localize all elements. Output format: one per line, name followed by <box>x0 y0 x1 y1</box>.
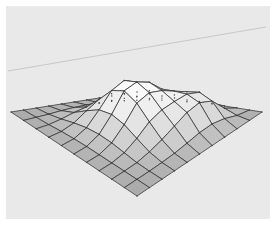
surface-vertex <box>136 95 137 96</box>
surface-svg <box>0 0 276 225</box>
surface-vertex <box>211 145 212 146</box>
surface-vertex <box>149 121 150 122</box>
surface-vertex <box>161 97 162 98</box>
surface-vertex <box>48 105 49 106</box>
surface-vertex <box>23 109 24 110</box>
surface-vertex <box>73 138 74 139</box>
surface-vertex <box>73 122 74 123</box>
surface-vertex <box>174 170 175 171</box>
surface-vertex <box>199 101 200 102</box>
surface-vertex <box>61 110 62 111</box>
surface-vertex <box>149 82 150 83</box>
surface-vertex <box>186 99 187 100</box>
surface-vertex <box>136 179 137 180</box>
surface-vertex <box>224 137 225 138</box>
surface-vertex <box>236 115 237 116</box>
surface-vertex <box>186 101 187 102</box>
surface-vertex <box>224 108 225 109</box>
surface-vertex <box>48 124 49 125</box>
surface-plot-figure <box>0 0 276 225</box>
surface-vertex <box>98 102 99 103</box>
surface-vertex <box>111 95 112 96</box>
surface-vertex <box>174 125 175 126</box>
surface-vertex <box>10 111 11 112</box>
surface-vertex <box>111 114 112 115</box>
surface-vertex <box>124 124 125 125</box>
surface-vertex <box>149 92 150 93</box>
surface-vertex <box>136 195 137 196</box>
surface-vertex <box>149 93 150 94</box>
surface-vertex <box>99 170 100 171</box>
surface-vertex <box>35 117 36 118</box>
surface-vertex <box>61 131 62 132</box>
surface-vertex <box>86 110 87 111</box>
surface-vertex <box>36 128 37 129</box>
surface-vertex <box>224 105 225 106</box>
surface-vertex <box>136 100 137 101</box>
surface-vertex <box>199 132 200 133</box>
surface-vertex <box>124 98 125 99</box>
surface-vertex <box>98 154 99 155</box>
surface-vertex <box>186 143 187 144</box>
surface-vertex <box>111 93 112 94</box>
surface-vertex <box>136 162 137 163</box>
surface-vertex <box>124 152 125 153</box>
surface-vertex <box>149 98 150 99</box>
surface-vertex <box>98 109 99 110</box>
surface-vertex <box>149 187 150 188</box>
surface-vertex <box>174 97 175 98</box>
surface-vertex <box>236 107 237 108</box>
surface-vertex <box>149 151 150 152</box>
surface-vertex <box>124 93 125 94</box>
surface-vertex <box>186 162 187 163</box>
surface-vertex <box>186 112 187 113</box>
surface-vertex <box>86 99 87 100</box>
surface-vertex <box>111 162 112 163</box>
surface-vertex <box>111 179 112 180</box>
surface-vertex <box>161 99 162 100</box>
surface-vertex <box>174 101 175 102</box>
surface-vertex <box>161 179 162 180</box>
surface-vertex <box>174 94 175 95</box>
surface-vertex <box>149 90 150 91</box>
surface-vertex <box>136 91 137 92</box>
surface-vertex <box>61 103 62 104</box>
surface-vertex <box>73 153 74 154</box>
surface-vertex <box>73 107 74 108</box>
surface-vertex <box>98 99 99 100</box>
surface-vertex <box>124 187 125 188</box>
surface-vertex <box>161 88 162 89</box>
surface-vertex <box>73 101 74 102</box>
surface-vertex <box>86 104 87 105</box>
surface-vertex <box>136 102 137 103</box>
surface-vertex <box>211 100 212 101</box>
plot-canvas <box>0 0 276 225</box>
surface-vertex <box>111 90 112 91</box>
surface-vertex <box>186 93 187 94</box>
surface-vertex <box>161 95 162 96</box>
surface-vertex <box>211 123 212 124</box>
surface-vertex <box>124 100 125 101</box>
surface-vertex <box>136 82 137 83</box>
surface-vertex <box>86 162 87 163</box>
surface-vertex <box>211 103 212 104</box>
surface-vertex <box>99 97 100 98</box>
surface-vertex <box>23 120 24 121</box>
surface-vertex <box>174 153 175 154</box>
surface-vertex <box>36 107 37 108</box>
surface-vertex <box>186 91 187 92</box>
surface-vertex <box>261 111 262 112</box>
surface-vertex <box>124 80 125 81</box>
surface-vertex <box>48 137 49 138</box>
surface-vertex <box>249 109 250 110</box>
surface-vertex <box>174 90 175 91</box>
surface-vertex <box>124 90 125 91</box>
surface-vertex <box>48 114 49 115</box>
surface-vertex <box>236 128 237 129</box>
surface-vertex <box>149 170 150 171</box>
surface-vertex <box>73 112 74 113</box>
surface-vertex <box>136 138 137 139</box>
surface-vertex <box>61 118 62 119</box>
surface-vertex <box>161 139 162 140</box>
surface-vertex <box>199 92 200 93</box>
